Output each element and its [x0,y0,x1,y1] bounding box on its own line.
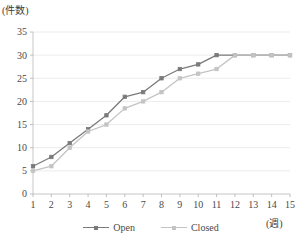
y-tick-label: 0 [22,188,27,199]
x-tick-label: 5 [104,199,109,210]
data-point-closed [141,100,144,103]
y-tick-label: 10 [17,142,27,153]
data-point-closed [123,107,126,110]
y-tick-label: 35 [17,26,27,37]
x-tick-label: 12 [230,199,240,210]
data-point-closed [288,53,291,56]
data-point-open [141,90,144,93]
legend-swatch-closed [161,223,187,232]
data-point-open [105,114,108,117]
data-point-closed [233,53,236,56]
data-point-open [123,95,126,98]
data-point-closed [86,130,89,133]
legend-label-closed: Closed [191,222,219,233]
data-point-closed [178,77,181,80]
x-tick-label: 8 [159,199,164,210]
x-tick-label: 13 [248,199,258,210]
y-tick-label: 25 [17,73,27,84]
data-point-open [160,77,163,80]
data-point-open [50,155,53,158]
x-tick-label: 4 [86,199,91,210]
data-point-open [215,53,218,56]
data-point-closed [105,123,108,126]
data-point-open [31,165,34,168]
data-point-closed [31,169,34,172]
line-chart: (件数) 05101520253035 12345678910111213141… [0,0,302,243]
x-tick-label: 15 [285,199,295,210]
x-tick-label: 2 [49,199,54,210]
data-point-closed [50,165,53,168]
x-tick-label: 1 [31,199,36,210]
y-axis-ticks: 05101520253035 [17,26,33,199]
legend-item-open[interactable]: Open [83,222,135,233]
x-tick-label: 10 [193,199,203,210]
x-tick-label: 7 [141,199,146,210]
data-point-closed [270,53,273,56]
data-point-closed [197,72,200,75]
data-point-closed [215,67,218,70]
y-tick-label: 5 [22,165,27,176]
y-tick-label: 20 [17,96,27,107]
x-tick-label: 14 [267,199,277,210]
data-point-open [197,63,200,66]
x-tick-label: 11 [212,199,222,210]
y-tick-label: 30 [17,50,27,61]
data-point-closed [160,90,163,93]
data-point-closed [68,146,71,149]
series-line-closed [33,55,290,171]
data-point-closed [252,53,255,56]
plot-area: 05101520253035 123456789101112131415 [0,0,302,243]
chart-legend: Open Closed [0,222,302,233]
legend-label-open: Open [113,222,135,233]
x-tick-label: 9 [177,199,182,210]
data-series [31,53,291,172]
legend-swatch-open [83,223,109,232]
x-axis-ticks: 123456789101112131415 [31,194,296,210]
y-tick-label: 15 [17,119,27,130]
data-point-open [68,141,71,144]
x-tick-label: 3 [67,199,72,210]
legend-item-closed[interactable]: Closed [161,222,219,233]
gridlines [33,32,290,171]
x-tick-label: 6 [122,199,127,210]
data-point-open [178,67,181,70]
